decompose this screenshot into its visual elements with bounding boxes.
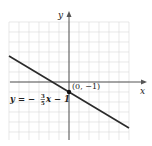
x-axis-arrow-icon [141, 80, 147, 85]
x-axis-label: x [140, 86, 145, 96]
equation-fraction-numerator: 3 [41, 93, 45, 99]
equation-label: y = − 3 5 x − 1 [9, 93, 70, 106]
y-axis-label: y [57, 10, 64, 20]
equation-fraction-denominator: 5 [41, 100, 45, 106]
equation-lhs: y = − [9, 94, 35, 104]
y-axis-arrow-icon [67, 11, 72, 17]
coordinate-graph: y x (0, −1) y = − 3 5 x − 1 [0, 0, 152, 146]
point-label: (0, −1) [72, 82, 100, 91]
equation-rhs: x − 1 [45, 94, 70, 104]
